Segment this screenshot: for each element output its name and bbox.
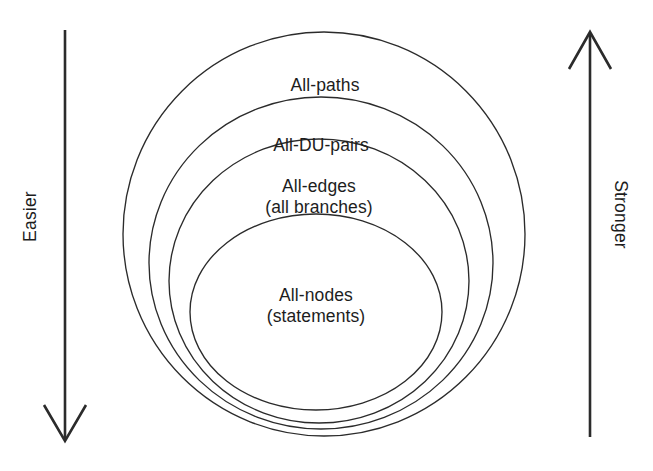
stronger-arrow [569,32,611,437]
easier-arrow [44,30,86,441]
region-label-all-nodes: All-nodes (statements) [216,285,416,327]
axis-label-easier: Easier [20,187,41,247]
region-label-all-nodes-line1: All-nodes [279,285,353,305]
region-label-all-du-pairs: All-DU-pairs [221,135,421,156]
region-label-all-edges-line1: All-edges [282,176,356,196]
region-label-all-nodes-line2: (statements) [216,306,416,327]
region-label-all-paths: All-paths [225,75,425,96]
region-label-all-paths-line1: All-paths [291,75,360,95]
nested-ellipse-diagram [0,0,653,471]
region-label-all-edges: All-edges (all branches) [219,176,419,218]
axis-label-stronger: Stronger [610,170,631,260]
region-label-all-edges-line2: (all branches) [219,197,419,218]
region-label-all-du-pairs-line1: All-DU-pairs [273,135,369,155]
figure-root: All-paths All-DU-pairs All-edges (all br… [0,0,653,471]
